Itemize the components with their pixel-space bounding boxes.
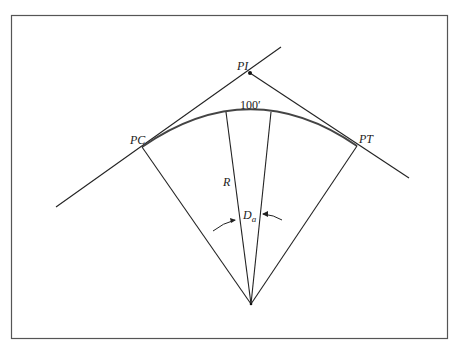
radius-to-pc xyxy=(142,147,251,304)
label-degree-subscript: a xyxy=(252,214,257,224)
label-arc-length: 100′ xyxy=(240,98,261,112)
curve-diagram: PI PC PT 100′ R Da xyxy=(0,0,460,347)
label-radius: R xyxy=(222,175,231,189)
label-degree-main: D xyxy=(242,208,252,222)
arrowhead-right-icon xyxy=(262,211,268,217)
label-pi: PI xyxy=(236,59,249,73)
radius-inner-right xyxy=(251,112,271,304)
arrowhead-left-icon xyxy=(230,218,236,223)
label-pc: PC xyxy=(129,133,146,147)
curve-arc xyxy=(142,109,357,147)
center-point xyxy=(250,303,253,306)
radius-to-pt xyxy=(251,146,357,304)
label-degree: Da xyxy=(242,208,257,224)
label-pt: PT xyxy=(358,132,374,146)
pi-point xyxy=(248,71,252,75)
forward-tangent-line xyxy=(250,73,409,178)
